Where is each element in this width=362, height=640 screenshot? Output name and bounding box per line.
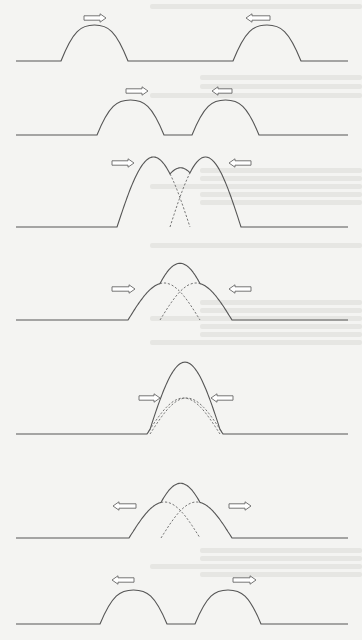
- superposition-diagram: [0, 0, 362, 640]
- individual-pulse-dashed-2: [161, 502, 200, 538]
- arrow-right-icon: [126, 87, 148, 95]
- arrow-left-icon: [212, 87, 232, 95]
- arrow-right-icon: [229, 502, 251, 510]
- string-with-two-pulses: [16, 100, 348, 135]
- string-with-two-pulses: [16, 590, 348, 624]
- resultant-waveform: [16, 263, 348, 320]
- arrow-left-icon: [112, 576, 134, 584]
- arrow-right-icon: [112, 285, 135, 293]
- individual-pulse-dashed-2: [160, 283, 200, 320]
- arrow-right-icon: [112, 159, 134, 167]
- arrow-right-icon: [84, 14, 106, 22]
- stage-6: [16, 483, 348, 538]
- resultant-waveform: [16, 362, 348, 434]
- arrow-left-icon: [229, 159, 251, 167]
- resultant-waveform: [16, 483, 348, 538]
- stage-4: [16, 263, 348, 320]
- stage-5: [16, 362, 348, 434]
- individual-pulse-dashed-1: [160, 283, 200, 320]
- individual-pulse-dashed-2: [150, 398, 223, 434]
- arrow-left-icon: [113, 502, 136, 510]
- arrow-right-icon: [139, 394, 160, 402]
- wave-pulse-figure: [0, 0, 362, 640]
- individual-pulse-dashed-1: [161, 502, 200, 538]
- arrow-left-icon: [246, 14, 270, 22]
- stage-1: [16, 14, 348, 61]
- arrow-right-icon: [233, 576, 256, 584]
- stage-2: [16, 87, 348, 135]
- arrow-left-icon: [211, 394, 233, 402]
- stage-3: [16, 157, 348, 227]
- individual-pulse-dashed-1: [147, 398, 220, 434]
- string-with-two-pulses: [16, 25, 348, 61]
- arrow-left-icon: [229, 285, 251, 293]
- stage-7: [16, 576, 348, 624]
